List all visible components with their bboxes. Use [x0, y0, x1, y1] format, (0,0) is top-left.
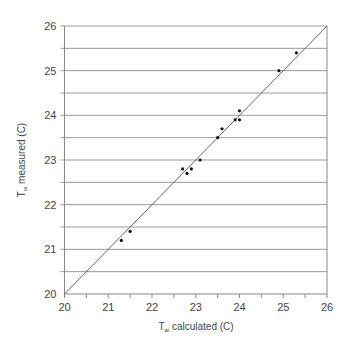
data-point	[238, 118, 241, 121]
data-point	[190, 167, 193, 170]
x-tick-label: 20	[58, 301, 70, 313]
y-tick-label: 20	[44, 288, 56, 300]
data-point	[234, 118, 237, 121]
data-point	[185, 172, 188, 175]
data-point	[181, 167, 184, 170]
x-tick-label: 24	[233, 301, 245, 313]
data-point	[120, 239, 123, 242]
data-point	[238, 109, 241, 112]
data-point	[216, 136, 219, 139]
data-point	[220, 127, 223, 130]
y-tick-label: 24	[44, 109, 56, 121]
y-tick-labels: 20212223242526	[44, 20, 56, 300]
x-tick-label: 23	[190, 301, 202, 313]
x-axis-title: Tai calculated (C)	[158, 321, 233, 333]
scatter-chart: 20212223242526 20212223242526 Tai calcul…	[0, 0, 354, 352]
data-point	[199, 158, 202, 161]
gridlines	[61, 26, 328, 272]
y-tick-label: 21	[44, 243, 56, 255]
x-tick-labels: 20212223242526	[58, 301, 333, 313]
x-tick-label: 22	[146, 301, 158, 313]
y-tick-label: 23	[44, 154, 56, 166]
data-point	[277, 69, 280, 72]
x-tick-label: 26	[321, 301, 333, 313]
y-axis-title: Tw measured (C)	[16, 123, 28, 197]
y-tick-label: 22	[44, 199, 56, 211]
tick-marks	[65, 294, 328, 298]
y-tick-label: 25	[44, 65, 56, 77]
data-point	[295, 51, 298, 54]
x-tick-label: 21	[102, 301, 114, 313]
y-tick-label: 26	[44, 20, 56, 32]
data-point	[129, 230, 132, 233]
x-tick-label: 25	[277, 301, 289, 313]
